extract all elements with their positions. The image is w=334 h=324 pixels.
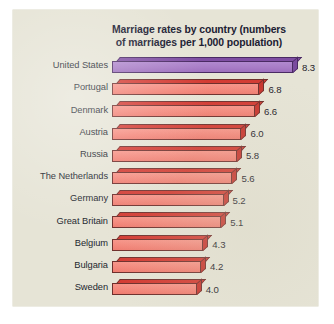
bar-side-face	[293, 56, 298, 73]
bar[interactable]	[112, 79, 264, 95]
bar-value-label: 4.3	[212, 239, 225, 250]
bar[interactable]	[112, 124, 246, 140]
bar-value-label: 6.6	[264, 106, 277, 117]
bar-side-face	[237, 145, 242, 162]
category-label: Portugal	[0, 82, 108, 92]
bar[interactable]	[112, 146, 242, 162]
bar[interactable]	[112, 235, 208, 251]
bar-front-face	[112, 239, 203, 251]
bar-side-face	[224, 190, 229, 207]
bar-side-face	[201, 256, 206, 273]
category-label: United States	[0, 60, 108, 70]
bar-side-face	[255, 101, 260, 118]
bar-row: United States8.3	[13, 54, 318, 76]
bar-value-label: 5.1	[230, 217, 243, 228]
category-label: Great Britain	[0, 216, 108, 226]
bar-row: Belgium4.3	[13, 232, 318, 254]
bar-front-face	[112, 83, 259, 95]
category-label: The Netherlands	[0, 171, 108, 181]
bar-row: Great Britain5.1	[13, 209, 318, 231]
category-label: Austria	[0, 127, 108, 137]
bar-side-face	[241, 123, 246, 140]
chart-figure: Marriage rates by country (numbers of ma…	[0, 0, 334, 324]
bar-row: Denmark6.6	[13, 98, 318, 120]
category-label: Denmark	[0, 105, 108, 115]
bar-front-face	[112, 61, 293, 73]
bar-front-face	[112, 150, 237, 162]
category-label: Russia	[0, 149, 108, 159]
bar-side-face	[232, 167, 237, 184]
chart-title-line-1: Marriage rates by country (numbers	[91, 24, 307, 37]
bar-value-label: 5.2	[233, 195, 246, 206]
bar-row: Sweden4.0	[13, 276, 318, 298]
bar-front-face	[112, 261, 201, 273]
chart-title-line-2: of marriages per 1,000 population)	[91, 37, 307, 50]
category-label: Sweden	[0, 282, 108, 292]
bar-front-face	[112, 216, 221, 228]
bar[interactable]	[112, 57, 298, 73]
bar-front-face	[112, 128, 241, 140]
bar-value-label: 6.8	[268, 84, 281, 95]
bar-front-face	[112, 283, 197, 295]
category-label: Belgium	[0, 238, 108, 248]
bar-side-face	[197, 278, 202, 295]
bar-row: Germany5.2	[13, 187, 318, 209]
bar-row: Austria6.0	[13, 121, 318, 143]
bar-value-label: 6.0	[250, 128, 263, 139]
bar-front-face	[112, 172, 232, 184]
bar[interactable]	[112, 101, 260, 117]
plot-area: United States8.3Portugal6.8Denmark6.6Aus…	[13, 54, 318, 304]
bar[interactable]	[112, 190, 229, 206]
bar-value-label: 5.8	[246, 150, 259, 161]
category-label: Bulgaria	[0, 260, 108, 270]
bar-value-label: 4.0	[206, 284, 219, 295]
bar-value-label: 8.3	[302, 62, 315, 73]
bar[interactable]	[112, 168, 237, 184]
bar-side-face	[221, 212, 226, 229]
chart-title: Marriage rates by country (numbers of ma…	[91, 24, 307, 49]
chart-panel: Marriage rates by country (numbers of ma…	[13, 10, 318, 306]
bar-front-face	[112, 194, 224, 206]
bar-front-face	[112, 105, 255, 117]
bar-side-face	[259, 79, 264, 96]
bar-value-label: 4.2	[210, 261, 223, 272]
bar[interactable]	[112, 257, 206, 273]
bar-value-label: 5.6	[241, 173, 254, 184]
category-label: Germany	[0, 193, 108, 203]
bar-row: Portugal6.8	[13, 76, 318, 98]
bar[interactable]	[112, 212, 226, 228]
bar-row: The Netherlands5.6	[13, 165, 318, 187]
bar-row: Russia5.8	[13, 143, 318, 165]
bar-side-face	[203, 234, 208, 251]
bar-row: Bulgaria4.2	[13, 254, 318, 276]
bar[interactable]	[112, 279, 202, 295]
